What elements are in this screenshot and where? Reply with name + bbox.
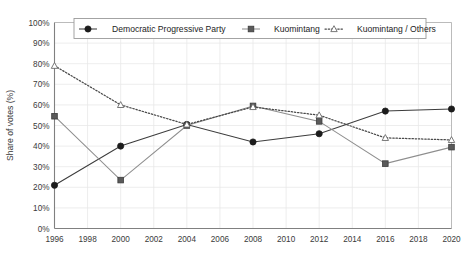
x-tick-label: 2014 <box>343 235 362 244</box>
x-tick-label: 2006 <box>211 235 230 244</box>
y-tick-label: 40% <box>33 142 49 151</box>
data-point <box>118 143 124 149</box>
legend-marker-icon <box>248 26 254 32</box>
y-tick-label: 70% <box>33 80 49 89</box>
data-point <box>448 106 454 112</box>
data-point <box>250 139 256 145</box>
data-point <box>316 119 322 125</box>
y-tick-label: 0% <box>38 225 50 234</box>
y-axis-title: Share of votes (%) <box>5 90 15 161</box>
x-tick-label: 2008 <box>244 235 263 244</box>
data-point <box>448 137 454 143</box>
x-tick-label: 2004 <box>178 235 197 244</box>
x-tick-label: 2010 <box>277 235 296 244</box>
x-tick-label: 2002 <box>145 235 164 244</box>
data-point <box>382 108 388 114</box>
gridlines <box>55 23 452 229</box>
data-point <box>51 182 57 188</box>
y-axis-title-text: Share of votes (%) <box>5 90 15 161</box>
y-axis-ticks: 0%10%20%30%40%50%60%70%80%90%100% <box>29 19 50 234</box>
y-tick-label: 90% <box>33 39 49 48</box>
y-tick-label: 10% <box>33 204 49 213</box>
legend-label: Kuomintang <box>274 24 320 34</box>
y-tick-label: 100% <box>29 19 50 28</box>
data-point <box>52 113 58 119</box>
data-point <box>383 161 389 167</box>
data-point <box>449 144 455 150</box>
chart-figure: 0%10%20%30%40%50%60%70%80%90%100% 199619… <box>0 0 469 260</box>
y-tick-label: 30% <box>33 163 49 172</box>
y-tick-label: 60% <box>33 101 49 110</box>
y-tick-label: 80% <box>33 60 49 69</box>
data-point <box>118 177 124 183</box>
x-axis-ticks: 1996199820002002200420062008201020122014… <box>45 235 461 244</box>
data-point <box>316 131 322 137</box>
x-tick-label: 2020 <box>442 235 461 244</box>
votes-line-chart: 0%10%20%30%40%50%60%70%80%90%100% 199619… <box>0 0 469 260</box>
x-tick-label: 2000 <box>112 235 131 244</box>
x-tick-label: 2012 <box>310 235 329 244</box>
chart-legend[interactable]: Democratic Progressive PartyKuomintangKu… <box>74 19 436 39</box>
legend-label: Democratic Progressive Party <box>112 24 226 34</box>
legend-label: Kuomintang / Others <box>357 24 436 34</box>
y-tick-label: 50% <box>33 122 49 131</box>
x-tick-label: 2018 <box>409 235 428 244</box>
x-tick-label: 1998 <box>78 235 97 244</box>
x-tick-label: 1996 <box>45 235 64 244</box>
x-tick-label: 2016 <box>376 235 395 244</box>
y-tick-label: 20% <box>33 183 49 192</box>
legend-marker-icon <box>85 26 91 32</box>
